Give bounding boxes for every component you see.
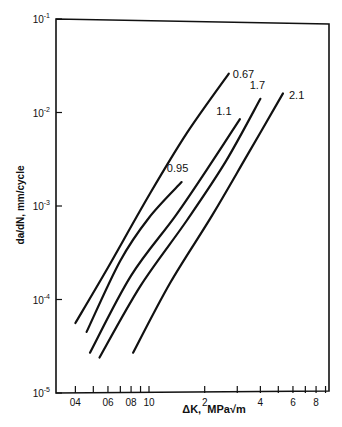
chart-background: [0, 0, 342, 427]
x-tick-label: 8: [313, 397, 319, 408]
curve-label: 1.7: [250, 79, 265, 91]
x-tick-label: 08: [126, 397, 138, 408]
x-tick-label: 6: [290, 397, 296, 408]
x-tick-label: 10: [143, 397, 155, 408]
crack-growth-chart: 10-110-210-310-410-5 040608102468 0.670.…: [0, 0, 342, 427]
curve-label: 2.1: [289, 89, 304, 101]
x-tick-label: 4: [258, 397, 264, 408]
y-axis-label: da/dN, mm/cycle: [15, 165, 26, 244]
curve-label: 0.95: [167, 162, 188, 174]
x-axis-label: ΔK, MPa√m: [182, 403, 246, 415]
curve-label: 1.1: [216, 105, 231, 117]
x-tick-label: 04: [70, 397, 82, 408]
x-tick-label: 06: [102, 397, 114, 408]
